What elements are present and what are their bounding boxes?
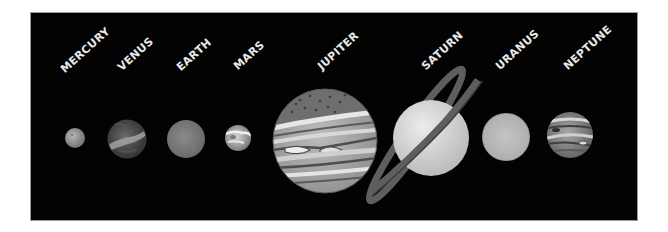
planet-mars (225, 125, 252, 151)
planet-venus (106, 120, 148, 158)
planet-earth (167, 120, 205, 158)
planet-uranus (482, 113, 530, 161)
planet-jupiter (273, 89, 377, 193)
planet-saturn (361, 63, 482, 207)
planet-mercury (65, 128, 85, 148)
planet-neptune (547, 112, 593, 158)
